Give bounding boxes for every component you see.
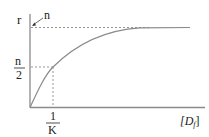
x-axis-label-close: ] xyxy=(196,114,200,128)
x-axis-label-base: [D xyxy=(180,114,194,128)
half-max-numerator: n xyxy=(15,54,21,68)
half-max-denominator: 2 xyxy=(16,68,22,82)
x-mark-denominator: K xyxy=(48,123,57,137)
binding-curve-diagram: r n n 2 1 K [Df] xyxy=(0,0,209,137)
x-axis-label: [Df] xyxy=(180,114,200,129)
saturation-curve xyxy=(30,28,190,108)
asymptote-label: n xyxy=(44,8,50,22)
y-axis-label: r xyxy=(17,12,22,27)
x-mark-numerator: 1 xyxy=(50,109,56,123)
